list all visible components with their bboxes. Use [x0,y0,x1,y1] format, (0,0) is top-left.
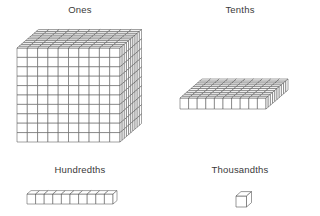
hundredths-rod-icon [0,160,160,216]
block-group-thousandths: Thousandths [160,160,320,216]
block-group-tenths: Tenths [160,2,320,160]
block-group-hundredths: Hundredths [0,160,160,216]
ones-cube-icon [0,2,160,160]
place-value-blocks-diagram: Ones Tenths Hundredths Thousandths [0,0,320,216]
tenths-flat-icon [160,2,320,160]
block-group-ones: Ones [0,2,160,160]
thousandths-unit-icon [160,160,320,216]
